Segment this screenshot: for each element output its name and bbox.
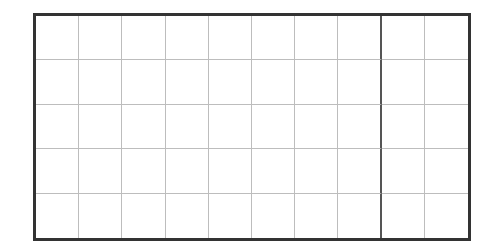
grid-cell xyxy=(295,105,338,149)
grid-cell xyxy=(36,194,79,238)
grid-cell xyxy=(382,60,425,104)
empty-grid xyxy=(33,13,471,241)
grid-cell xyxy=(79,60,122,104)
grid-cell xyxy=(166,194,209,238)
grid-cell xyxy=(36,149,79,193)
grid-cell xyxy=(252,105,295,149)
grid-cell xyxy=(79,194,122,238)
grid-cell xyxy=(122,60,165,104)
grid-cell xyxy=(209,149,252,193)
grid-cell xyxy=(252,60,295,104)
grid-cell xyxy=(122,105,165,149)
grid-cell xyxy=(295,16,338,60)
grid-cell xyxy=(295,149,338,193)
grid-cell xyxy=(338,149,381,193)
grid-cell xyxy=(382,149,425,193)
grid-cell xyxy=(425,60,468,104)
grid-cell xyxy=(252,194,295,238)
grid-cell xyxy=(166,16,209,60)
grid-cell xyxy=(209,16,252,60)
grid-cell xyxy=(36,60,79,104)
grid-cell xyxy=(425,105,468,149)
grid-cell xyxy=(166,60,209,104)
grid-cell xyxy=(79,149,122,193)
grid-cell xyxy=(36,16,79,60)
grid-cell xyxy=(382,105,425,149)
grid-cell xyxy=(425,16,468,60)
grid-cell xyxy=(122,194,165,238)
grid-cell xyxy=(79,105,122,149)
grid-cell xyxy=(338,16,381,60)
grid-cell xyxy=(425,194,468,238)
grid-cell xyxy=(338,194,381,238)
grid-cell xyxy=(252,16,295,60)
grid-cell xyxy=(209,105,252,149)
grid-cell xyxy=(338,60,381,104)
grid-cell xyxy=(209,194,252,238)
grid-cell xyxy=(295,194,338,238)
grid-cell xyxy=(122,149,165,193)
grid-cell xyxy=(166,149,209,193)
grid-cell xyxy=(382,194,425,238)
grid-cell xyxy=(295,60,338,104)
grid-cell xyxy=(209,60,252,104)
grid-cell xyxy=(382,16,425,60)
grid-cell xyxy=(36,105,79,149)
grid-cell xyxy=(338,105,381,149)
grid-cell xyxy=(79,16,122,60)
grid-cell xyxy=(252,149,295,193)
grid-cell xyxy=(122,16,165,60)
grid-cell xyxy=(166,105,209,149)
grid-cell xyxy=(425,149,468,193)
